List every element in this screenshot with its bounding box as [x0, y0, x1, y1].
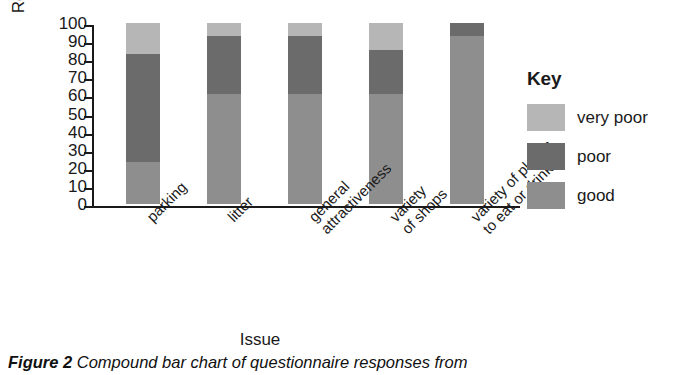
y-tick-label: 50 — [47, 105, 87, 125]
y-tick-label: 40 — [47, 123, 87, 143]
bar — [207, 23, 241, 204]
y-tick-label: 0 — [47, 195, 87, 215]
y-tick-label: 70 — [47, 68, 87, 88]
figure-caption: Figure 2 Compound bar chart of questionn… — [8, 352, 680, 373]
legend: Key very poorpoorgood — [527, 68, 682, 221]
bar-segment — [288, 94, 322, 204]
bar-segment — [207, 23, 241, 36]
bar-segment — [126, 162, 160, 204]
bar-segment — [450, 23, 484, 36]
legend-swatch — [527, 143, 565, 170]
y-tick-label: 10 — [47, 177, 87, 197]
y-tick-label: 100 — [47, 14, 87, 34]
figure-container: Respondents (%) 0102030405060708090100 p… — [0, 0, 688, 375]
bar-segment — [126, 54, 160, 163]
legend-item: poor — [527, 143, 682, 170]
bar-segment — [126, 23, 160, 54]
y-tick-label: 20 — [47, 159, 87, 179]
bar-segment — [207, 94, 241, 204]
y-axis-title: Respondents (%) — [6, 0, 32, 44]
figure-caption-text: Compound bar chart of questionnaire resp… — [72, 353, 467, 371]
x-axis-title: Issue — [190, 330, 330, 350]
y-tick-label: 30 — [47, 141, 87, 161]
legend-item: very poor — [527, 104, 682, 131]
bar-segment — [450, 36, 484, 204]
y-tick-label: 80 — [47, 50, 87, 70]
legend-label: very poor — [577, 108, 648, 128]
legend-swatch — [527, 104, 565, 131]
bar-segment — [288, 23, 322, 36]
legend-label: good — [577, 186, 615, 206]
legend-item: good — [527, 182, 682, 209]
bar-segment — [288, 36, 322, 94]
bar-segment — [207, 36, 241, 94]
y-tick-label: 90 — [47, 32, 87, 52]
y-tick-label: 60 — [47, 86, 87, 106]
bar-segment — [369, 50, 403, 93]
legend-swatch — [527, 182, 565, 209]
legend-items: very poorpoorgood — [527, 104, 682, 209]
bar — [450, 23, 484, 204]
legend-title: Key — [527, 68, 682, 90]
bar-segment — [369, 23, 403, 50]
bar — [126, 23, 160, 204]
bar — [288, 23, 322, 204]
figure-caption-label: Figure 2 — [8, 353, 72, 371]
plot-area: 0102030405060708090100 parkinglittergene… — [92, 25, 496, 206]
legend-label: poor — [577, 147, 611, 167]
